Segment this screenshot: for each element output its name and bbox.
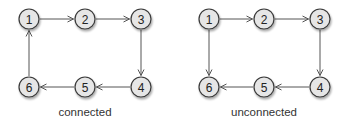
node-4: 4 (310, 77, 330, 97)
node-1: 1 (199, 9, 219, 29)
node-2: 2 (254, 9, 274, 29)
graph-connected: 123456connected (19, 9, 151, 118)
node-label: 1 (206, 13, 213, 27)
node-label: 3 (138, 13, 145, 27)
node-label: 6 (26, 81, 33, 95)
graph-caption: unconnected (231, 106, 297, 118)
node-2: 2 (75, 9, 95, 29)
node-1: 1 (19, 9, 39, 29)
node-6: 6 (199, 77, 219, 97)
node-4: 4 (131, 77, 151, 97)
node-label: 2 (261, 13, 268, 27)
node-6: 6 (19, 77, 39, 97)
node-label: 5 (82, 81, 89, 95)
node-label: 2 (82, 13, 89, 27)
node-3: 3 (131, 9, 151, 29)
node-label: 6 (206, 81, 213, 95)
node-5: 5 (254, 77, 274, 97)
node-label: 1 (26, 13, 33, 27)
node-3: 3 (310, 9, 330, 29)
node-5: 5 (75, 77, 95, 97)
graph-unconnected: 123456unconnected (199, 9, 330, 118)
node-label: 3 (317, 13, 324, 27)
graph-caption: connected (58, 106, 111, 118)
node-label: 4 (317, 81, 324, 95)
node-label: 5 (261, 81, 268, 95)
node-label: 4 (138, 81, 145, 95)
graph-diagram: 123456connected123456unconnected (0, 0, 347, 127)
